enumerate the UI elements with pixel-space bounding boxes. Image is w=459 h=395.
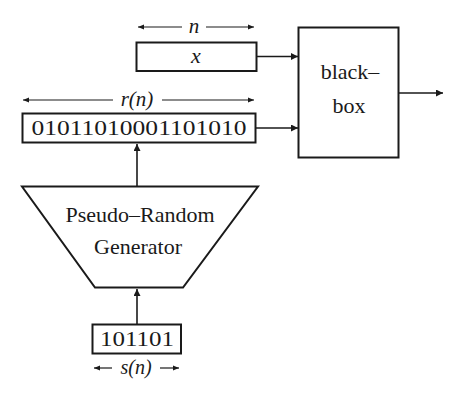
seed-box: 101101 bbox=[93, 325, 182, 354]
sn-label: s(n) bbox=[120, 356, 151, 379]
input-x-box: x bbox=[137, 43, 257, 72]
seed-label: 101101 bbox=[100, 327, 174, 351]
prg-diagram: n x r(n) 01011010001101010 Pseudo–Random… bbox=[0, 0, 459, 395]
blackbox-label-line1: black– bbox=[321, 59, 381, 84]
prg-trapezoid: Pseudo–Random Generator bbox=[22, 187, 258, 288]
n-label: n bbox=[189, 14, 200, 38]
rn-label: r(n) bbox=[121, 87, 154, 111]
random-string-label: 01011010001101010 bbox=[32, 116, 247, 140]
input-x-label: x bbox=[190, 43, 201, 68]
rn-width-indicator: r(n) bbox=[23, 87, 254, 111]
prg-label-line2: Generator bbox=[94, 234, 183, 259]
prg-label-line1: Pseudo–Random bbox=[65, 202, 214, 227]
n-width-indicator: n bbox=[138, 14, 254, 38]
sn-width-indicator: s(n) bbox=[94, 356, 179, 379]
random-string-box: 01011010001101010 bbox=[23, 114, 256, 143]
blackbox-label-line2: box bbox=[333, 93, 366, 118]
blackbox: black– box bbox=[299, 28, 399, 158]
